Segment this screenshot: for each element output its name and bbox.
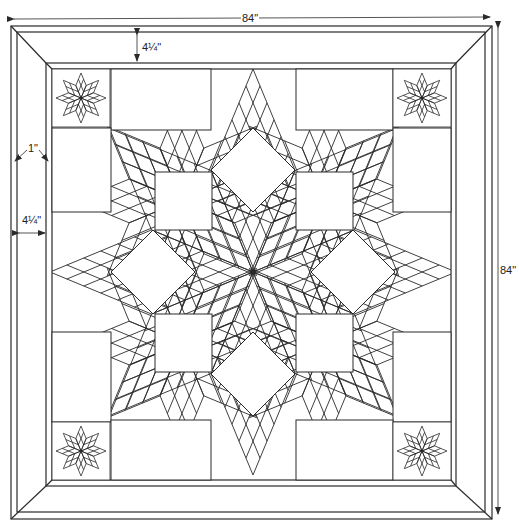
quilt-diagram (0, 0, 519, 529)
top-border-label: 4¼" (141, 41, 162, 53)
narrow-border-label: 1" (27, 142, 39, 154)
height-label: 84" (500, 264, 516, 276)
width-label: 84" (241, 12, 259, 24)
narrow-border-pointer-right (39, 150, 48, 161)
side-border-label: 4¼" (21, 214, 42, 226)
